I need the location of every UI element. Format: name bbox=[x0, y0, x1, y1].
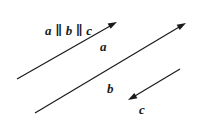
vector-a-label: a bbox=[100, 40, 107, 53]
vector-b-arrowhead-icon bbox=[177, 23, 186, 30]
vector-c bbox=[128, 69, 180, 100]
parallel-vectors-diagram bbox=[0, 0, 198, 120]
vector-a-arrowhead-icon bbox=[108, 22, 117, 29]
vector-c-label: c bbox=[139, 103, 145, 116]
vector-c-line bbox=[134, 69, 180, 96]
parallel-relation-label: a ∥ b ∥ c bbox=[45, 24, 92, 37]
vector-b-line bbox=[35, 27, 180, 113]
vector-c-arrowhead-icon bbox=[128, 93, 137, 100]
vector-b-label: b bbox=[107, 82, 114, 95]
